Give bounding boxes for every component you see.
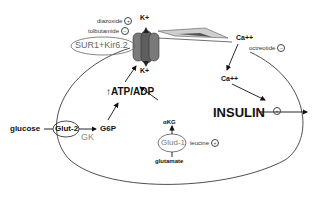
katp-channel-icon [133, 27, 159, 67]
inhibitory-icon: − [277, 44, 285, 52]
leucine-label: leucine+ [190, 139, 219, 147]
calcium-outside-label: Ca++ [236, 34, 253, 41]
diazoxide-label: diazoxide+ [97, 17, 132, 25]
glud1-label: Glud-1 [161, 139, 185, 147]
atp-adp-label: ↑ATP/ADP [106, 87, 154, 97]
k-ion-bottom: K+ [140, 67, 149, 74]
calcium-inside-label: Ca++ [221, 75, 238, 82]
octreotide-label: octreotide− [249, 44, 285, 52]
glutamate-label: glutamate [155, 158, 183, 164]
calcium-channel [158, 28, 232, 42]
g6p-label: G6P [100, 125, 116, 133]
stimulatory-icon: + [211, 139, 219, 147]
gk-label: GK [81, 133, 94, 142]
k-ion-top: K+ [140, 14, 149, 21]
stimulatory-icon: + [124, 17, 132, 25]
glucose-label: glucose [10, 125, 40, 133]
inhibitory-icon: − [121, 27, 129, 35]
glut2-label: Glut-2 [55, 125, 78, 133]
insulin-effect: + [271, 102, 281, 118]
akg-label: αKG [163, 119, 176, 125]
diagram-canvas [0, 0, 317, 200]
tolbutamide-label: tolbutamide− [88, 27, 129, 35]
sur1-kir62-label: SUR1+Kir6.2 [75, 41, 128, 50]
insulin-label: INSULIN [213, 106, 265, 119]
stimulatory-icon: + [273, 107, 281, 115]
